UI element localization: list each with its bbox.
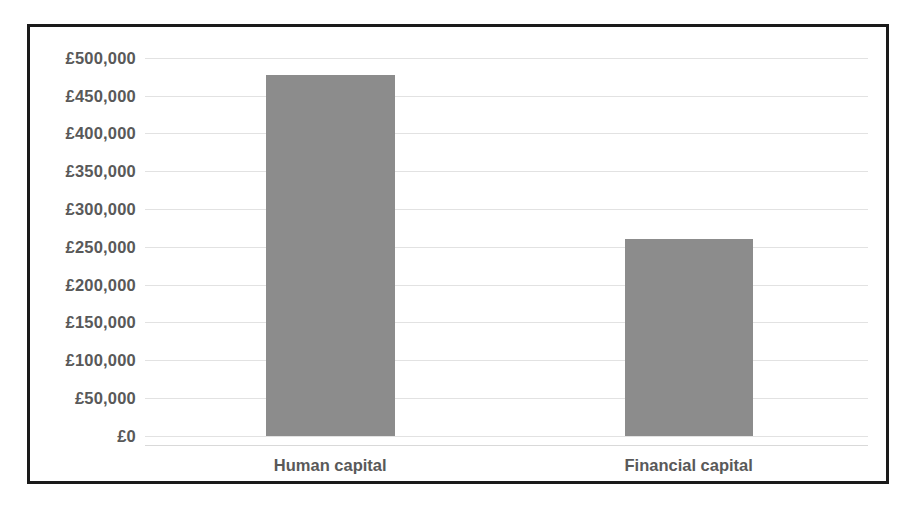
- bar[interactable]: [625, 239, 753, 436]
- chart-frame: £500,000£450,000£400,000£350,000£300,000…: [27, 24, 889, 484]
- bars-layer: [30, 27, 886, 481]
- plot-area: £500,000£450,000£400,000£350,000£300,000…: [30, 27, 886, 481]
- bar-chart: £500,000£450,000£400,000£350,000£300,000…: [0, 0, 917, 509]
- x-axis-tick-label: Financial capital: [545, 451, 833, 479]
- category-axis-line: [145, 445, 868, 446]
- x-axis-labels: Human capitalFinancial capital: [30, 451, 886, 479]
- bar[interactable]: [266, 75, 395, 436]
- x-axis-tick-label: Human capital: [186, 451, 475, 479]
